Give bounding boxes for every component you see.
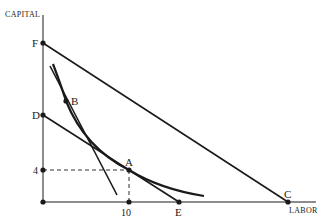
label-E: E: [175, 206, 182, 218]
point-C: [285, 199, 290, 204]
label-C: C: [284, 188, 291, 200]
point-D: [40, 112, 45, 117]
label-D: D: [32, 109, 40, 121]
point-E: [176, 199, 181, 204]
point-A: [126, 167, 131, 172]
label-B: B: [71, 95, 78, 107]
isoquant-diagram: CAPITAL LABOR F D B A E C 4 10: [0, 0, 326, 224]
point-origin: [40, 199, 45, 204]
label-F: F: [32, 37, 38, 49]
label-A: A: [125, 156, 133, 168]
point-F: [40, 40, 45, 45]
point-B: [63, 98, 68, 103]
x-axis-label: LABOR: [289, 206, 318, 215]
point-4: [40, 167, 45, 172]
y-axis-label: CAPITAL: [5, 10, 40, 19]
isoquant-curve: [53, 64, 204, 196]
point-10: [126, 199, 131, 204]
tick-label-y-4: 4: [33, 165, 38, 176]
tick-label-x-10: 10: [121, 207, 131, 218]
